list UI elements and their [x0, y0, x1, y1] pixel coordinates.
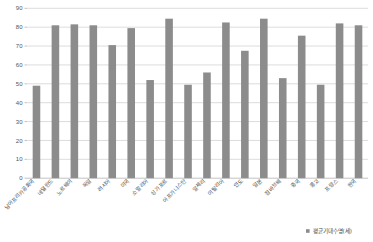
bar	[260, 19, 268, 179]
x-axis-category-label: 콩고	[309, 178, 320, 189]
bar	[146, 80, 154, 178]
y-axis-tick-label: 60	[16, 62, 23, 68]
x-axis-category-label: 네덜란드	[36, 177, 56, 197]
bar	[279, 78, 287, 178]
x-axis-category-label: 남아프리카공화국	[2, 177, 36, 211]
chart-legend: 평균기대수명(세)	[306, 227, 352, 235]
legend-swatch-icon	[306, 229, 310, 233]
bar	[127, 28, 135, 178]
bar	[298, 36, 306, 179]
y-axis-tick-label: 80	[16, 24, 23, 30]
bar	[222, 22, 230, 178]
bar	[90, 25, 98, 178]
y-axis-tick-label: 0	[19, 175, 23, 181]
bars-group	[33, 19, 363, 179]
x-axis-category-label: 소말리아	[130, 177, 150, 197]
bar-chart: 0102030405060708090 남아프리카공화국네덜란드노르웨이독일러시…	[0, 0, 373, 242]
y-axis-tick-label: 10	[16, 156, 23, 162]
x-axis-category-label: 한국	[346, 178, 358, 190]
x-axis-category-label: 알제리	[191, 177, 207, 193]
x-axis-category-label: 독일	[80, 177, 93, 190]
bar	[241, 51, 249, 178]
x-axis-category-label: 미국	[118, 177, 131, 190]
x-axis-category-label: 노르웨이	[54, 177, 74, 197]
x-axis-category-label: 일본	[251, 177, 263, 189]
x-axis-category-labels: 남아프리카공화국네덜란드노르웨이독일러시아미국소말리아싱가포르아프가니스탄알제리…	[2, 177, 358, 211]
legend-label: 평균기대수명(세)	[313, 227, 352, 235]
x-axis-category-label: 프랑스	[324, 178, 339, 193]
y-axis-tick-label: 90	[16, 5, 23, 11]
y-axis-tick-label: 40	[16, 100, 23, 106]
bar	[203, 72, 211, 178]
y-axis-tick-label: 70	[16, 43, 23, 49]
bar	[52, 25, 60, 178]
bar	[317, 85, 325, 178]
y-axis-tick-labels: 0102030405060708090	[16, 5, 23, 181]
bar	[71, 24, 79, 178]
x-axis-category-label: 중국	[290, 178, 302, 190]
bar	[355, 25, 363, 178]
bar	[184, 85, 192, 178]
x-axis-category-label: 인도	[233, 178, 244, 189]
bar	[165, 19, 173, 179]
bar	[33, 86, 41, 179]
x-axis-category-label: 짐바브웨	[263, 177, 283, 197]
y-axis-tick-label: 50	[16, 81, 23, 87]
chart-canvas: 0102030405060708090 남아프리카공화국네덜란드노르웨이독일러시…	[0, 0, 373, 242]
bar	[108, 45, 116, 178]
x-axis-category-label: 러시아	[96, 177, 112, 193]
bar	[336, 23, 344, 178]
y-axis-tick-label: 20	[16, 138, 23, 144]
x-axis-category-label: 이탈리아	[206, 177, 226, 197]
y-axis-tick-label: 30	[16, 119, 23, 125]
